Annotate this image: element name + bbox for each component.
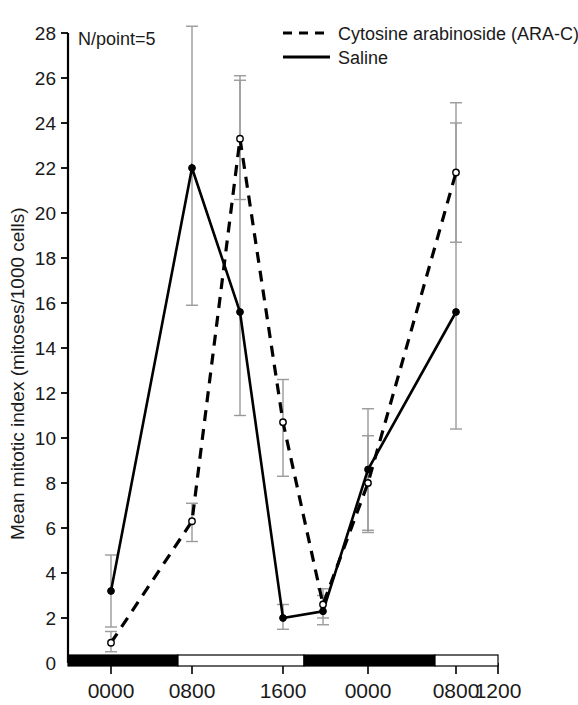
x-tick-label: 0000 xyxy=(345,679,392,702)
chart-figure: Mean mitotic index (mitoses/1000 cells) … xyxy=(0,0,578,705)
y-tick-label: 8 xyxy=(45,473,56,494)
data-point-marker-arac xyxy=(108,640,114,646)
y-tick-label: 22 xyxy=(35,158,56,179)
light-dark-segment-dark xyxy=(304,655,435,666)
y-tick-label: 18 xyxy=(35,248,56,269)
data-point-marker-saline xyxy=(280,615,287,622)
y-tick-label: 10 xyxy=(35,428,56,449)
x-tick-label: 0000 xyxy=(88,679,135,702)
data-point-marker-arac xyxy=(365,480,371,486)
data-point-marker-arac xyxy=(320,601,326,607)
y-tick-label: 28 xyxy=(35,23,56,44)
y-tick-label: 20 xyxy=(35,203,56,224)
data-point-marker-saline xyxy=(189,165,196,172)
data-point-marker-saline xyxy=(320,608,327,615)
y-axis-title-group: Mean mitotic index (mitoses/1000 cells) xyxy=(7,207,28,540)
mitotic-index-line-chart: Mean mitotic index (mitoses/1000 cells) … xyxy=(0,0,578,705)
y-tick-label: 4 xyxy=(45,563,56,584)
data-point-marker-saline xyxy=(453,309,460,316)
data-point-marker-saline xyxy=(108,588,115,595)
y-tick-label: 6 xyxy=(45,518,56,539)
data-point-marker-arac xyxy=(280,419,286,425)
x-axis-ticks: 000008001600000008001200 xyxy=(88,663,522,702)
data-point-marker-arac xyxy=(237,136,243,142)
light-dark-segment-light xyxy=(435,655,498,666)
y-tick-label: 0 xyxy=(45,653,56,674)
y-tick-label: 2 xyxy=(45,608,56,629)
y-tick-label: 26 xyxy=(35,68,56,89)
x-tick-label: 1200 xyxy=(475,679,522,702)
n-per-point-annotation: N/point=5 xyxy=(78,29,156,49)
y-tick-label: 24 xyxy=(35,113,57,134)
data-point-marker-saline xyxy=(365,466,372,473)
y-tick-label: 14 xyxy=(35,338,57,359)
data-point-marker-saline xyxy=(237,309,244,316)
legend-label-arac: Cytosine arabinoside (ARA-C) xyxy=(338,24,578,44)
x-tick-label: 0800 xyxy=(433,679,480,702)
light-dark-segment-light xyxy=(178,655,304,666)
x-tick-label: 1600 xyxy=(260,679,307,702)
y-tick-label: 16 xyxy=(35,293,56,314)
y-tick-label: 12 xyxy=(35,383,56,404)
light-dark-segment-dark xyxy=(68,655,178,666)
light-dark-cycle-bar xyxy=(68,655,498,666)
y-axis-ticks: 0246810121416182022242628 xyxy=(35,23,68,674)
y-axis-title: Mean mitotic index (mitoses/1000 cells) xyxy=(7,207,28,540)
data-point-marker-arac xyxy=(453,169,459,175)
error-bar xyxy=(234,80,246,415)
x-tick-label: 0800 xyxy=(169,679,216,702)
legend-label-saline: Saline xyxy=(338,48,388,68)
legend: Cytosine arabinoside (ARA-C) Saline xyxy=(283,24,578,68)
data-point-marker-arac xyxy=(189,518,195,524)
